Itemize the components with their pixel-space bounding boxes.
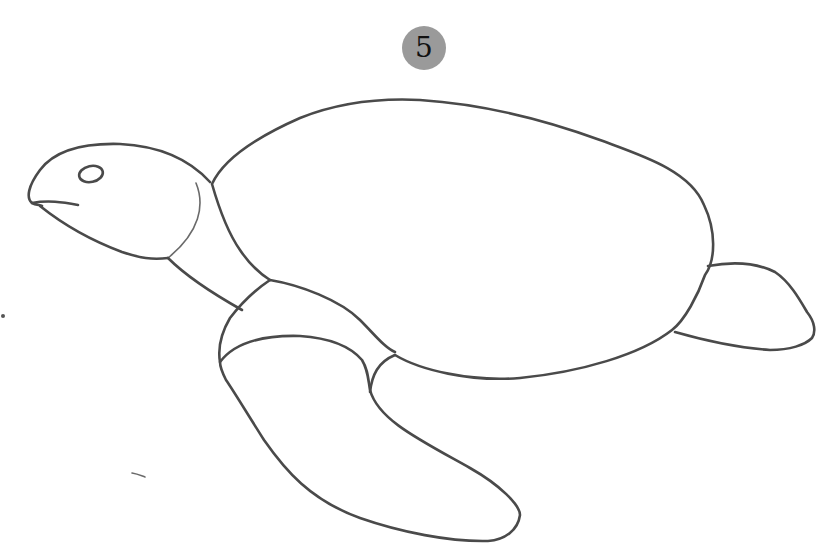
pencil-mark	[132, 473, 145, 477]
turtle-flipper-inner-curve	[370, 355, 395, 392]
turtle-drawing	[0, 0, 828, 560]
turtle-front-flipper	[220, 336, 520, 541]
turtle-neck-front	[168, 183, 200, 258]
turtle-neck-lower	[168, 258, 242, 310]
turtle-rear-flipper	[675, 264, 814, 350]
turtle-eye	[78, 164, 105, 185]
pencil-speck	[1, 314, 5, 318]
turtle-front-flipper-joint	[219, 280, 395, 362]
